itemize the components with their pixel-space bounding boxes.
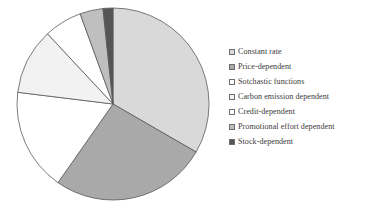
- legend-item-credit-dependent[interactable]: Credit-dependent: [229, 104, 365, 119]
- legend-item-constant-rate[interactable]: Constant rate: [229, 44, 365, 59]
- legend-item-price-dependent[interactable]: Price-dependent: [229, 59, 365, 74]
- legend-item-label: Carbon emission dependent: [238, 92, 329, 101]
- legend-swatch-icon: [229, 109, 235, 115]
- legend-item-promotional-effort-dependent[interactable]: Promotional effort dependent: [229, 119, 365, 134]
- legend-item-sotchastic-functions[interactable]: Sotchastic functions: [229, 74, 365, 89]
- legend-swatch-icon: [229, 139, 235, 145]
- pie-plot-area: [0, 0, 225, 206]
- legend-item-label: Constant rate: [238, 47, 282, 56]
- legend-item-label: Promotional effort dependent: [238, 122, 335, 131]
- legend-item-label: Stock-dependent: [238, 137, 293, 146]
- chart-legend: Constant rate Price-dependent Sotchastic…: [229, 44, 365, 149]
- pie-slice-group: [17, 8, 209, 200]
- legend-swatch-icon: [229, 94, 235, 100]
- legend-item-stock-dependent[interactable]: Stock-dependent: [229, 134, 365, 149]
- legend-swatch-icon: [229, 64, 235, 70]
- legend-item-label: Credit-dependent: [238, 107, 295, 116]
- legend-swatch-icon: [229, 124, 235, 130]
- pie-chart-figure: Constant rate Price-dependent Sotchastic…: [0, 0, 365, 206]
- pie-svg: [0, 0, 225, 206]
- legend-swatch-icon: [229, 79, 235, 85]
- legend-item-label: Price-dependent: [238, 62, 291, 71]
- legend-item-label: Sotchastic functions: [238, 77, 304, 86]
- legend-item-carbon-emission-dependent[interactable]: Carbon emission dependent: [229, 89, 365, 104]
- legend-swatch-icon: [229, 49, 235, 55]
